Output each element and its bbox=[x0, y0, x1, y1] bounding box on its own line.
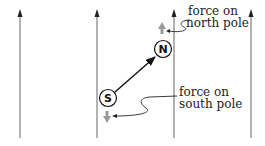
south-leader-line bbox=[114, 96, 177, 116]
south-force-label-line2: south pole bbox=[179, 97, 242, 111]
field-line-1 bbox=[18, 9, 23, 138]
arrow-up-icon bbox=[249, 9, 254, 17]
field-line-3 bbox=[172, 9, 177, 138]
south-pole-label: S bbox=[104, 92, 112, 105]
dipole-arrow bbox=[115, 57, 155, 92]
south-force-arrow bbox=[103, 111, 111, 123]
arrow-up-icon bbox=[172, 9, 177, 17]
north-pole: N bbox=[155, 41, 172, 58]
field-line-4 bbox=[249, 9, 254, 138]
magnetic-dipole-diagram: S N force on north pole force on south p… bbox=[0, 0, 265, 146]
field-line-2 bbox=[95, 9, 100, 138]
arrow-up-icon bbox=[18, 9, 23, 17]
south-pole: S bbox=[100, 90, 117, 107]
arrow-down-icon bbox=[103, 116, 111, 123]
north-force-label-line2: north pole bbox=[186, 16, 249, 30]
north-force-arrow bbox=[158, 22, 166, 34]
arrow-up-icon bbox=[158, 22, 166, 29]
north-pole-label: N bbox=[158, 43, 167, 56]
arrow-up-icon bbox=[95, 9, 100, 17]
